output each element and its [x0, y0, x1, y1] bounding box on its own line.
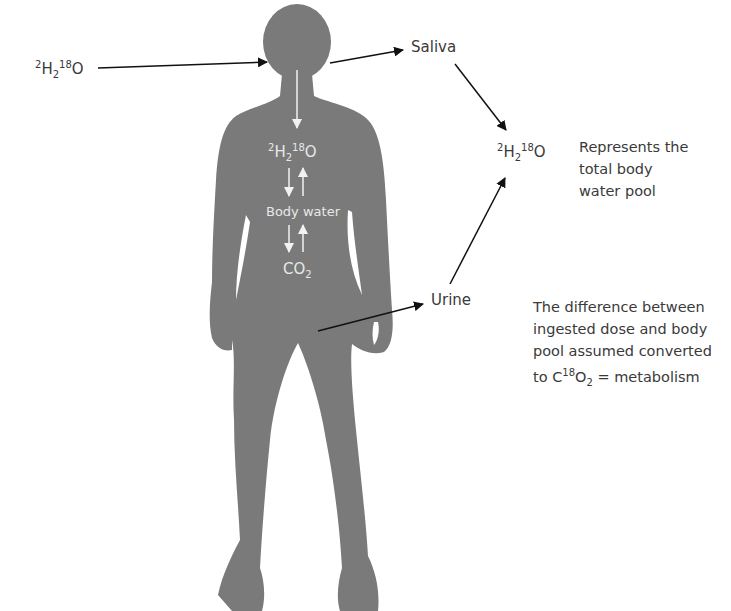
co2-label: CO2 — [283, 262, 312, 280]
pool-label: 2H218O — [497, 143, 546, 163]
metabolism-note: The difference between ingested dose and… — [533, 296, 712, 394]
diagram-canvas: 2H218O Saliva 2H218O Represents the tota… — [0, 0, 731, 611]
dose-label: 2H218O — [35, 60, 84, 80]
human-silhouette — [210, 4, 393, 611]
urine-to-pool-arrow — [450, 178, 505, 284]
saliva-arrow — [330, 50, 403, 63]
pool-note: Represents the total body water pool — [579, 136, 688, 202]
body-water-label: Body water — [266, 205, 340, 218]
body-tracer-label: 2H218O — [268, 143, 317, 163]
saliva-label: Saliva — [411, 40, 456, 55]
dose-arrow — [98, 62, 267, 68]
saliva-to-pool-arrow — [455, 64, 506, 130]
urine-label: Urine — [431, 293, 471, 308]
